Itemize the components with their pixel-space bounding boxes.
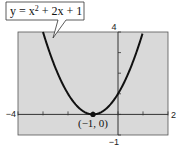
y-max-label: 4 [111,22,116,32]
vertex-point [90,112,95,117]
x-max-label: 2 [171,110,176,120]
equation-rhs: + 2x + 1 [39,4,83,18]
parabola-chart: −4 2 4 −1 (−1, 0) y = x2 + 2x + 1 [0,0,181,152]
x-min-label: −4 [6,109,16,119]
equation-lhs: y = x [10,4,35,18]
equation-label: y = x2 + 2x + 1 [10,4,82,18]
y-min-label: −1 [109,137,119,147]
vertex-label: (−1, 0) [78,117,108,130]
